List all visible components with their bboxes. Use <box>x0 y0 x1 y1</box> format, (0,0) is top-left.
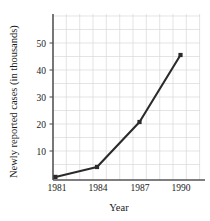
y-tick-label-10: 10 <box>37 147 47 157</box>
x-tick-label-1990: 1990 <box>172 183 191 193</box>
y-tick-label-40: 40 <box>37 66 47 76</box>
y-tick-label-20: 20 <box>37 120 47 130</box>
data-point-1984 <box>95 165 99 169</box>
x-tick-label-1981: 1981 <box>48 183 67 193</box>
y-tick-label-50: 50 <box>37 39 47 49</box>
x-axis-title: Year <box>109 202 129 213</box>
data-point-1990 <box>178 53 182 57</box>
data-point-1987 <box>137 120 141 124</box>
x-tick-label-1984: 1984 <box>89 183 108 193</box>
y-axis-title: Newly reported cases (in thousands) <box>8 25 20 178</box>
chart-canvas: 10 20 30 40 50 1981 1984 1987 1990 Newly… <box>0 0 210 221</box>
x-tick-label-1987: 1987 <box>131 183 150 193</box>
line-chart: 10 20 30 40 50 1981 1984 1987 1990 Newly… <box>0 0 210 221</box>
data-point-1981 <box>53 175 57 179</box>
y-tick-label-30: 30 <box>37 93 47 103</box>
